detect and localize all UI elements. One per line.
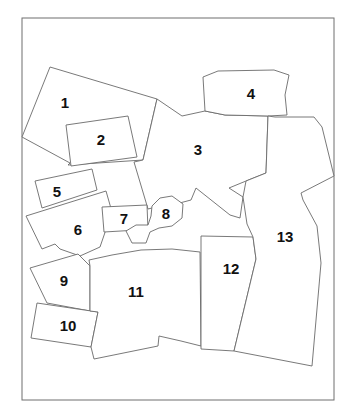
region-4-label: 4 xyxy=(247,85,256,102)
region-9-label: 9 xyxy=(60,272,68,289)
region-10-label: 10 xyxy=(60,317,77,334)
region-1-label: 1 xyxy=(61,94,69,111)
region-5-label: 5 xyxy=(53,183,61,200)
region-11-label: 11 xyxy=(128,283,144,300)
region-6[interactable]: 6 xyxy=(26,191,112,256)
region-8-label: 8 xyxy=(162,205,170,222)
region-2-label: 2 xyxy=(97,131,105,148)
region-7-label: 7 xyxy=(120,210,128,227)
plot-map: 12345678910111213 xyxy=(0,0,354,420)
region-3-label: 3 xyxy=(194,141,202,158)
region-6-shape[interactable] xyxy=(26,191,112,256)
region-11-shape[interactable] xyxy=(89,249,201,359)
region-13-label: 13 xyxy=(277,228,294,245)
region-12-label: 12 xyxy=(223,260,240,277)
region-6-label: 6 xyxy=(74,221,82,238)
region-2[interactable]: 2 xyxy=(66,116,137,166)
map-regions: 12345678910111213 xyxy=(22,67,334,366)
region-9[interactable]: 9 xyxy=(30,254,90,311)
region-4[interactable]: 4 xyxy=(203,70,289,116)
region-11[interactable]: 11 xyxy=(89,249,201,359)
